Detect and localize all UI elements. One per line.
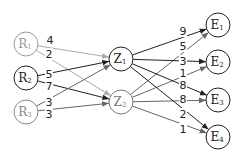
edge-z1-e2: [133, 59, 206, 61]
node-e3: E3: [206, 88, 230, 112]
edge-weight-z1-e4: 2: [180, 108, 187, 121]
edge-weight-r1-z1: 4: [47, 34, 54, 47]
edge-z1-e1: [132, 29, 206, 55]
node-e2: E2: [206, 50, 230, 74]
edge-weight-r1-z2: 2: [46, 48, 53, 61]
edge-z1-e4: [130, 67, 208, 130]
node-e4: E4: [206, 125, 230, 149]
edge-weight-z1-e1: 9: [180, 25, 187, 38]
network-diagram: 42573395318821 R1R2R3Z1Z2E1E2E3E4: [0, 0, 244, 159]
weight-labels-layer: 42573395318821: [45, 25, 187, 136]
node-z2: Z2: [109, 90, 133, 114]
node-r3: R3: [14, 100, 38, 124]
edge-weight-z2-e3: 8: [180, 93, 187, 106]
node-r1: R1: [14, 32, 38, 56]
edge-z2-e3: [133, 100, 206, 102]
node-z1: Z1: [109, 47, 133, 71]
edge-weight-z2-e1: 5: [180, 40, 187, 53]
edge-weight-z1-e3: 8: [180, 79, 187, 92]
edge-weight-r2-z2: 7: [46, 80, 53, 93]
edge-weight-r3-z2: 3: [46, 108, 53, 121]
edge-z1-e3: [132, 64, 207, 96]
edge-weight-z2-e4: 1: [180, 123, 187, 136]
node-e1: E1: [206, 13, 230, 37]
edge-z2-e2: [132, 67, 207, 98]
node-r2: R2: [14, 66, 38, 90]
